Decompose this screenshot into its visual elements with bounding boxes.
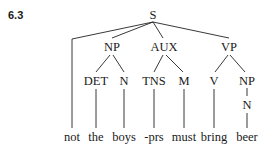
- node-tns: TNS: [142, 74, 166, 88]
- tree-words: not the boys -prs must bring beer: [64, 130, 259, 144]
- node-n: N: [119, 74, 128, 88]
- edge-np-det: [96, 55, 110, 72]
- tree-nodes: S NP AUX VP DET N TNS M V NP N: [84, 8, 255, 112]
- node-det: DET: [84, 74, 109, 88]
- edge-s-aux: [153, 22, 163, 38]
- edge-aux-tns: [154, 55, 163, 72]
- node-aux: AUX: [150, 40, 177, 54]
- word-boys: boys: [112, 130, 136, 144]
- edge-s-np: [112, 22, 153, 38]
- word-prs: -prs: [144, 130, 164, 144]
- edge-vp-np: [230, 55, 245, 72]
- edge-vp-v: [215, 55, 228, 72]
- node-n-object: N: [242, 98, 251, 112]
- word-not: not: [64, 130, 81, 144]
- edge-np-n: [113, 55, 124, 72]
- node-np: NP: [104, 40, 120, 54]
- word-beer: beer: [236, 130, 258, 144]
- word-bring: bring: [201, 130, 228, 144]
- node-s: S: [150, 8, 157, 22]
- node-m: M: [178, 74, 189, 88]
- word-the: the: [88, 130, 104, 144]
- syntax-tree: S NP AUX VP DET N TNS M V NP N not the b…: [0, 0, 263, 157]
- edge-s-vp: [153, 22, 229, 38]
- word-must: must: [172, 130, 197, 144]
- node-v: V: [209, 74, 218, 88]
- edge-aux-m: [166, 55, 183, 72]
- node-np-object: NP: [239, 74, 255, 88]
- node-vp: VP: [221, 40, 237, 54]
